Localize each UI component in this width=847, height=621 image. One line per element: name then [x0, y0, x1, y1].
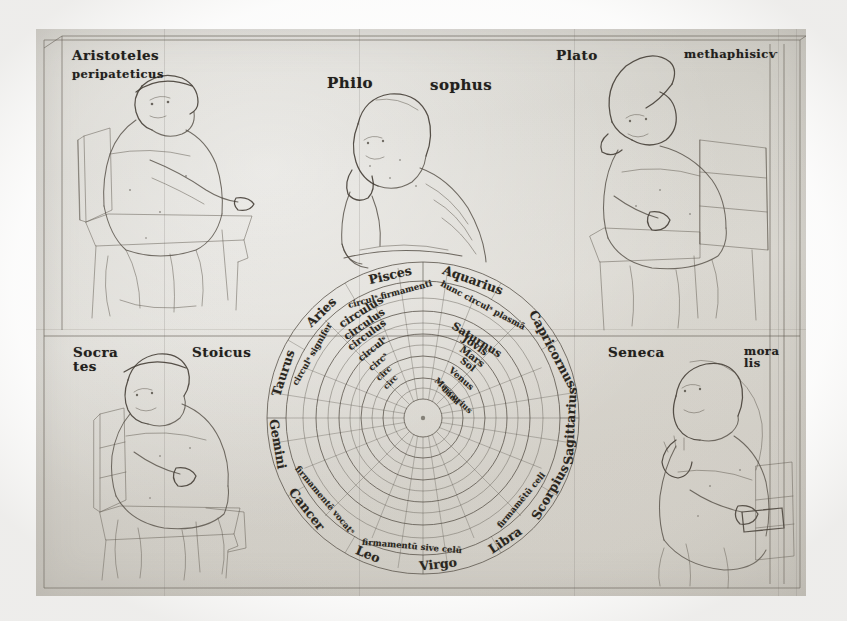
label-aristotle-name: Aristoteles	[72, 48, 159, 62]
label-seneca-name: Seneca	[608, 345, 665, 359]
label-philosophus-epithet: sophus	[430, 78, 492, 94]
label-socrates-epithet: Stoicus	[192, 345, 251, 359]
label-seneca-epithet: mora lis	[744, 345, 779, 369]
parchment-crease	[778, 29, 779, 596]
parchment-crease	[796, 29, 797, 596]
label-philosophus-name: Philo	[327, 76, 373, 92]
label-aristotle-epithet: peripateticus	[72, 68, 164, 80]
parchment-crease	[36, 329, 806, 330]
label-plato-epithet: methaphisicѵ	[684, 48, 778, 60]
parchment-crease	[574, 29, 575, 596]
parchment-crease	[164, 29, 165, 596]
label-socrates-name-line2: tes	[73, 359, 118, 373]
label-seneca-epithet-line2: lis	[744, 357, 779, 369]
parchment-leaf	[36, 29, 806, 596]
label-socrates-name: Socra tes	[73, 345, 118, 373]
manuscript-page: .ln { fill:none; stroke:#4f4940; stroke-…	[0, 0, 847, 621]
label-plato-name: Plato	[556, 48, 598, 62]
